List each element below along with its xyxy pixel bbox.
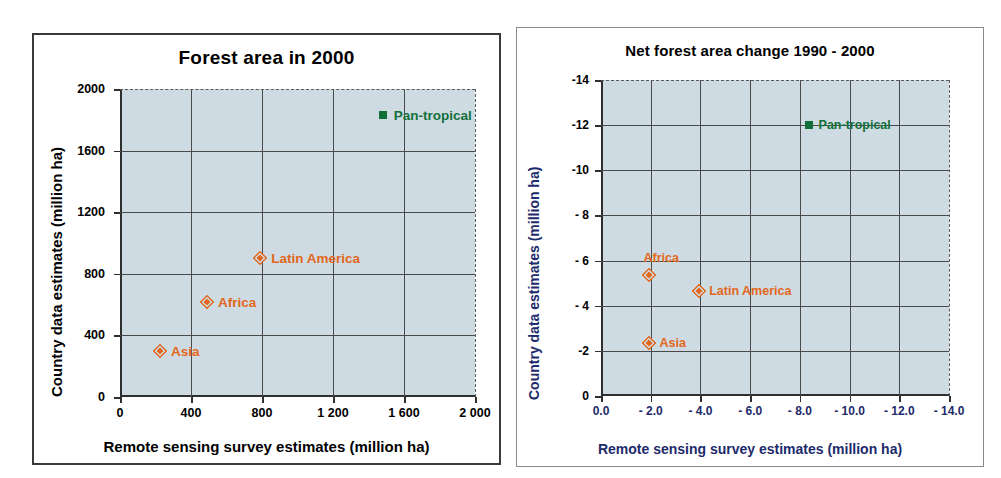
x-tick-mark	[700, 396, 702, 402]
chart-panel-net-change: Net forest area change 1990 - 2000 Count…	[516, 27, 984, 467]
gridline-vertical	[333, 89, 334, 397]
data-point-label: Asia	[659, 336, 685, 350]
y-tick-label: -2	[578, 344, 589, 358]
y-tick-mark	[595, 351, 601, 353]
data-point-label: Africa	[643, 251, 678, 265]
data-point-asia[interactable]	[153, 344, 167, 358]
x-tick-mark	[475, 397, 477, 403]
x-tick-label: - 2.0	[639, 404, 663, 418]
x-tick-mark	[651, 396, 653, 402]
gridline-horizontal	[601, 125, 949, 126]
y-tick-mark	[595, 261, 601, 263]
y-tick-label: 800	[84, 267, 105, 281]
x-tick-label: 0.0	[593, 404, 610, 418]
data-point-label: Latin America	[271, 251, 360, 266]
gridline-horizontal	[601, 170, 949, 171]
x-tick-label: 1 600	[388, 406, 419, 420]
x-tick-mark	[899, 396, 901, 402]
y-tick-label: 2000	[77, 82, 105, 96]
gridline-vertical	[262, 89, 263, 397]
x-tick-label: - 8.0	[788, 404, 812, 418]
plot-frame-right	[601, 80, 949, 396]
y-axis-title-left: Country data estimates (million ha)	[48, 147, 65, 397]
gridline-vertical	[899, 80, 900, 396]
y-tick-mark	[114, 89, 120, 91]
x-tick-label: - 10.0	[834, 404, 865, 418]
gridline-horizontal	[601, 215, 949, 216]
y-tick-label: 0	[582, 389, 589, 403]
gridline-vertical	[651, 80, 652, 396]
y-tick-mark	[595, 215, 601, 217]
x-tick-label: - 14.0	[934, 404, 965, 418]
figure-page: Forest area in 2000 Country data estimat…	[0, 0, 1001, 478]
x-tick-label: 800	[252, 406, 273, 420]
gridline-vertical	[404, 89, 405, 397]
chart-title-left: Forest area in 2000	[34, 47, 499, 69]
y-tick-mark	[595, 306, 601, 308]
x-tick-mark	[850, 396, 852, 402]
gridline-horizontal	[601, 80, 949, 81]
data-point-asia[interactable]	[642, 336, 656, 350]
y-tick-label: -12	[572, 118, 589, 132]
y-tick-label: 400	[84, 328, 105, 342]
x-axis-title-left: Remote sensing survey estimates (million…	[34, 438, 499, 455]
gridline-horizontal	[120, 89, 475, 90]
y-tick-label: -14	[572, 73, 589, 87]
data-point-pan-tropical[interactable]	[379, 111, 387, 119]
x-tick-mark	[333, 397, 335, 403]
gridline-horizontal	[120, 151, 475, 152]
x-tick-mark	[262, 397, 264, 403]
y-tick-mark	[114, 335, 120, 337]
gridline-horizontal	[120, 212, 475, 213]
data-point-latin-america[interactable]	[253, 251, 267, 265]
chart-title-right: Net forest area change 1990 - 2000	[517, 42, 983, 59]
gridline-horizontal	[601, 306, 949, 307]
y-tick-mark	[595, 170, 601, 172]
y-tick-mark	[114, 274, 120, 276]
gridline-vertical	[750, 80, 751, 396]
y-tick-label: 1200	[77, 205, 105, 219]
x-tick-label: 0	[117, 406, 124, 420]
y-tick-label: 0	[98, 390, 105, 404]
data-point-africa[interactable]	[200, 294, 214, 308]
x-tick-label: 400	[181, 406, 202, 420]
y-tick-mark	[595, 125, 601, 127]
x-tick-mark	[120, 397, 122, 403]
y-tick-label: - 4	[575, 299, 589, 313]
gridline-horizontal	[120, 335, 475, 336]
data-point-label: Pan-tropical	[394, 108, 472, 123]
y-tick-mark	[595, 80, 601, 82]
y-tick-label: -10	[572, 163, 589, 177]
data-point-label: Asia	[171, 343, 200, 358]
y-tick-mark	[114, 212, 120, 214]
y-axis-title-right: Country data estimates (million ha)	[526, 167, 542, 400]
chart-panel-forest-area: Forest area in 2000 Country data estimat…	[32, 33, 501, 465]
data-point-africa[interactable]	[642, 268, 656, 282]
x-tick-label: 2 000	[459, 406, 490, 420]
data-point-label: Latin America	[709, 284, 791, 298]
y-tick-mark	[114, 151, 120, 153]
y-tick-label: - 6	[575, 254, 589, 268]
data-point-latin-america[interactable]	[692, 284, 706, 298]
gridline-horizontal	[120, 274, 475, 275]
y-tick-mark	[114, 397, 120, 399]
gridline-vertical	[700, 80, 701, 396]
plot-area-right	[601, 80, 949, 396]
y-tick-mark	[595, 396, 601, 398]
data-point-label: Pan-tropical	[819, 118, 891, 132]
x-tick-label: 1 200	[317, 406, 348, 420]
y-tick-label: - 8	[575, 208, 589, 222]
x-tick-mark	[949, 396, 951, 402]
x-tick-label: - 12.0	[884, 404, 915, 418]
x-tick-mark	[750, 396, 752, 402]
x-tick-mark	[191, 397, 193, 403]
gridline-vertical	[475, 89, 476, 397]
gridline-vertical	[949, 80, 950, 396]
data-point-pan-tropical[interactable]	[805, 121, 813, 129]
x-tick-mark	[800, 396, 802, 402]
y-tick-label: 1600	[77, 144, 105, 158]
x-tick-label: - 6.0	[738, 404, 762, 418]
x-tick-mark	[404, 397, 406, 403]
x-tick-mark	[601, 396, 603, 402]
x-tick-label: - 4.0	[688, 404, 712, 418]
